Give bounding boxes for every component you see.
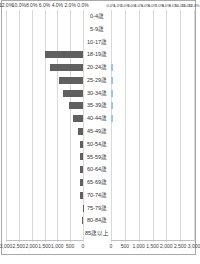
age-label: 25-29歳 bbox=[83, 74, 111, 87]
gridline-left bbox=[45, 10, 46, 242]
right-bar bbox=[111, 64, 113, 71]
gridline-right bbox=[139, 10, 140, 242]
left-bar bbox=[80, 141, 83, 148]
age-label: 55-59歳 bbox=[83, 151, 111, 164]
age-label: 40-44歳 bbox=[83, 112, 111, 125]
right-bar bbox=[111, 115, 113, 122]
gridline-right bbox=[111, 10, 112, 242]
age-label: 0-4歳 bbox=[83, 10, 111, 23]
gridline-right bbox=[153, 10, 154, 242]
gridline-left bbox=[6, 10, 7, 242]
gridline-right bbox=[194, 10, 195, 242]
left-bar bbox=[78, 128, 83, 135]
axis-line-left bbox=[6, 240, 83, 241]
left-bar bbox=[45, 51, 84, 58]
left-bar bbox=[73, 115, 83, 122]
axis-label-bottom-left: 0 bbox=[72, 243, 94, 249]
gridline-right bbox=[125, 10, 126, 242]
age-label: 20-24歳 bbox=[83, 61, 111, 74]
left-bar bbox=[83, 205, 84, 212]
right-bar bbox=[111, 77, 113, 84]
left-bar bbox=[50, 64, 83, 71]
age-label: 35-39歳 bbox=[83, 99, 111, 112]
axis-label-bottom-right: 3,000 bbox=[183, 243, 200, 249]
right-bar bbox=[111, 90, 113, 97]
chart-area: 12.0%3,000010.0%2,5005008.0%2,0001,0006.… bbox=[0, 0, 200, 264]
age-label: 75-79歳 bbox=[83, 202, 111, 215]
age-label: 30-34歳 bbox=[83, 87, 111, 100]
left-bar bbox=[69, 102, 83, 109]
age-label: 65-69歳 bbox=[83, 176, 111, 189]
axis-label-top-right: 12.0% bbox=[188, 3, 199, 8]
age-label: 50-54歳 bbox=[83, 138, 111, 151]
gridline-right bbox=[180, 10, 181, 242]
left-bar bbox=[80, 179, 83, 186]
age-label: 5-9歳 bbox=[83, 23, 111, 36]
chart-window: 12.0%3,000010.0%2,5005008.0%2,0001,0006.… bbox=[0, 0, 200, 264]
left-bar bbox=[80, 153, 83, 160]
left-bar bbox=[63, 90, 83, 97]
gridline-left bbox=[32, 10, 33, 242]
age-label: 45-49歳 bbox=[83, 125, 111, 138]
age-label: 85歳以上 bbox=[83, 227, 111, 240]
left-bar bbox=[59, 77, 83, 84]
age-label: 60-64歳 bbox=[83, 163, 111, 176]
left-bar bbox=[80, 166, 83, 173]
left-bar bbox=[80, 192, 83, 199]
axis-label-top-left: 0.0% bbox=[72, 2, 94, 8]
age-label: 70-74歳 bbox=[83, 189, 111, 202]
gridline-left bbox=[57, 10, 58, 242]
gridline-left bbox=[70, 10, 71, 242]
gridline-right bbox=[166, 10, 167, 242]
gridline-left bbox=[19, 10, 20, 242]
left-bar bbox=[82, 217, 84, 224]
age-label: 10-17歳 bbox=[83, 36, 111, 49]
axis-line-right bbox=[111, 240, 194, 241]
age-label: 18-19歳 bbox=[83, 48, 111, 61]
age-label: 80-84歳 bbox=[83, 214, 111, 227]
right-bar bbox=[111, 102, 113, 109]
